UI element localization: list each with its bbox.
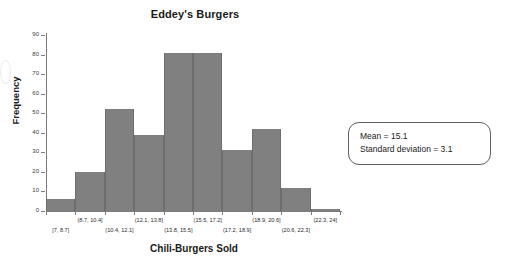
x-tick-mark [75, 211, 76, 215]
histogram-bar [311, 209, 340, 211]
stats-callout-box: Mean = 15.1 Standard deviation = 3.1 [348, 122, 491, 165]
y-tick-mark [41, 113, 45, 114]
x-tick-label: (8.7, 10.4] [60, 216, 120, 224]
chart-title: Eddey's Burgers [0, 8, 390, 20]
x-tick-mark [222, 211, 223, 215]
y-tick-mark [41, 74, 45, 75]
y-tick-label: 10 [32, 187, 39, 194]
y-tick-label: 30 [32, 148, 39, 155]
x-tick-mark [105, 211, 106, 215]
histogram-bar [164, 53, 193, 211]
y-tick-label: 0 [36, 207, 39, 214]
standard-deviation-text: Standard deviation = 3.1 [360, 143, 490, 156]
y-tick-label: 70 [32, 70, 39, 77]
histogram-bar [134, 135, 163, 211]
histogram-figure: Eddey's Burgers Frequency 01020304050607… [0, 0, 512, 267]
y-tick-label: 60 [32, 90, 39, 97]
x-tick-mark [134, 211, 135, 215]
x-tick-mark [281, 211, 282, 215]
x-tick-label: (20.6, 22.3] [266, 226, 326, 234]
histogram-bars [46, 35, 340, 211]
y-tick-mark [41, 191, 45, 192]
y-tick-label: 40 [32, 129, 39, 136]
x-axis-line [46, 211, 342, 212]
x-tick-mark [252, 211, 253, 215]
x-tick-label: (10.4, 12.1] [90, 226, 150, 234]
x-tick-label: (15.5, 17.2] [178, 216, 238, 224]
x-tick-label: (17.2, 18.9] [207, 226, 267, 234]
histogram-bar [75, 172, 104, 211]
x-tick-mark [193, 211, 194, 215]
y-axis-title: Frequency [10, 56, 21, 146]
histogram-bar [252, 129, 281, 211]
x-tick-label: (22.3, 24] [295, 216, 355, 224]
x-tick-label: [7, 8.7] [31, 226, 91, 234]
y-tick-label: 20 [32, 168, 39, 175]
x-tick-label: (18.9, 20.6] [237, 216, 297, 224]
histogram-bar [193, 53, 222, 211]
y-tick-label: 50 [32, 109, 39, 116]
y-tick-mark [41, 152, 45, 153]
y-tick-mark [41, 133, 45, 134]
histogram-bar [105, 109, 134, 211]
x-tick-mark [311, 211, 312, 215]
histogram-bar [222, 150, 251, 211]
x-tick-label: (12.1, 13.8] [119, 216, 179, 224]
x-tick-mark [164, 211, 165, 215]
y-tick-mark [41, 172, 45, 173]
y-tick-mark [41, 94, 45, 95]
x-tick-mark [46, 211, 47, 215]
histogram-bar [281, 188, 310, 211]
histogram-bar [46, 199, 75, 211]
y-tick-label: 90 [32, 31, 39, 38]
y-tick-mark [41, 55, 45, 56]
mean-text: Mean = 15.1 [360, 130, 490, 143]
x-tick-mark [340, 211, 341, 215]
x-axis-title: Chili-Burgers Sold [46, 243, 342, 254]
y-tick-label: 80 [32, 51, 39, 58]
y-tick-mark [41, 35, 45, 36]
y-tick-mark [41, 211, 45, 212]
x-tick-label: (13.8, 15.5] [148, 226, 208, 234]
